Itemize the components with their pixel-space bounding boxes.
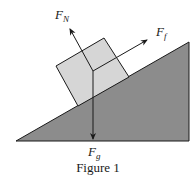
friction-force-label: Ff bbox=[155, 24, 168, 41]
free-body-diagram: FN Ff Fg Figure 1 bbox=[0, 0, 196, 176]
figure-caption: Figure 1 bbox=[76, 160, 120, 175]
gravity-force-label: Fg bbox=[87, 144, 101, 161]
normal-force-label: FN bbox=[54, 7, 70, 24]
